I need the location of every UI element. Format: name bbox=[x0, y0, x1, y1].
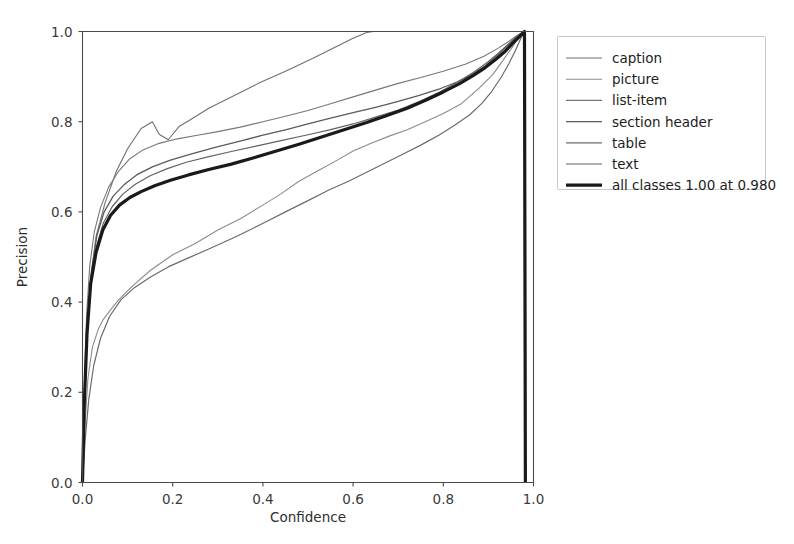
legend-label-4: table bbox=[612, 135, 646, 151]
legend-label-1: picture bbox=[612, 71, 659, 87]
legend-label-6: all classes 1.00 at 0.980 bbox=[612, 177, 776, 193]
x-axis-title: Confidence bbox=[270, 509, 346, 525]
legend-label-5: text bbox=[612, 156, 639, 172]
chart-canvas: 0.00.20.40.60.81.0 0.00.20.40.60.81.0 Co… bbox=[0, 0, 794, 544]
y-tick-label: 0.0 bbox=[51, 475, 72, 491]
y-tick-label: 0.2 bbox=[51, 384, 72, 400]
x-tick-label: 1.0 bbox=[523, 491, 544, 507]
x-tick-label: 0.0 bbox=[72, 491, 93, 507]
legend-label-3: section header bbox=[612, 114, 713, 130]
x-tick-label: 0.6 bbox=[342, 491, 363, 507]
precision-confidence-figure: 0.00.20.40.60.81.0 0.00.20.40.60.81.0 Co… bbox=[0, 0, 794, 544]
legend-label-2: list-item bbox=[612, 92, 667, 108]
legend-label-0: caption bbox=[612, 50, 662, 66]
x-tick-label: 0.2 bbox=[162, 491, 183, 507]
x-tick-label: 0.4 bbox=[252, 491, 273, 507]
y-tick-label: 0.4 bbox=[51, 294, 72, 310]
y-tick-label: 0.8 bbox=[51, 114, 72, 130]
x-tick-label: 0.8 bbox=[433, 491, 454, 507]
legend: captionpicturelist-itemsection headertab… bbox=[558, 37, 777, 194]
y-tick-label: 1.0 bbox=[51, 24, 72, 40]
y-tick-label: 0.6 bbox=[51, 204, 72, 220]
y-axis-title: Precision bbox=[14, 227, 30, 287]
